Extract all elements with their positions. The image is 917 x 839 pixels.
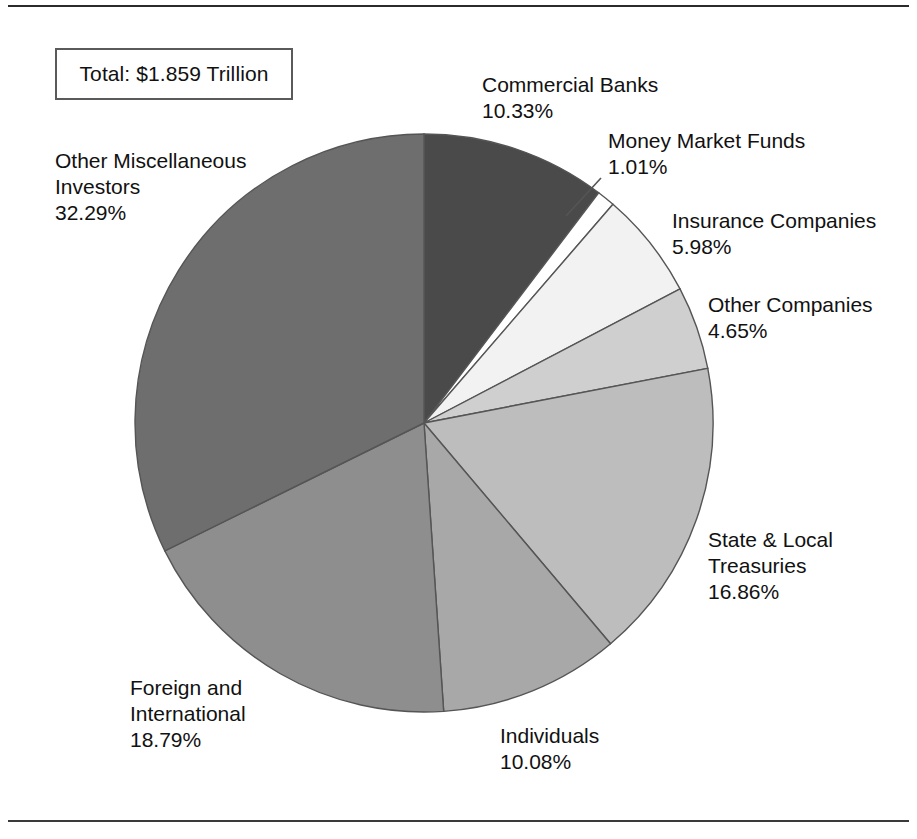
label-percent: 10.08%: [500, 749, 599, 775]
slice-label-money-market-funds: Money Market Funds 1.01%: [608, 128, 805, 180]
label-percent: 10.33%: [482, 98, 658, 124]
label-line-1: Other Miscellaneous: [55, 148, 246, 174]
label-percent: 4.65%: [708, 318, 873, 344]
slice-label-commercial-banks: Commercial Banks 10.33%: [482, 72, 658, 124]
label-percent: 16.86%: [708, 579, 833, 605]
slice-label-individuals: Individuals 10.08%: [500, 723, 599, 775]
label-line-2: International: [130, 701, 246, 727]
slice-label-foreign-international: Foreign and International 18.79%: [130, 675, 246, 753]
label-percent: 1.01%: [608, 154, 805, 180]
label-line-1: Other Companies: [708, 292, 873, 318]
label-line-1: Commercial Banks: [482, 72, 658, 98]
slice-label-insurance-companies: Insurance Companies 5.98%: [672, 208, 876, 260]
label-line-2: Investors: [55, 174, 246, 200]
label-line-1: Money Market Funds: [608, 128, 805, 154]
slice-label-other-miscellaneous: Other Miscellaneous Investors 32.29%: [55, 148, 246, 226]
figure-page: Total: $1.859 Trillion Other Miscellaneo…: [0, 0, 917, 839]
label-percent: 18.79%: [130, 727, 246, 753]
label-line-1: Insurance Companies: [672, 208, 876, 234]
label-percent: 32.29%: [55, 200, 246, 226]
label-percent: 5.98%: [672, 234, 876, 260]
slice-label-state-local-treasuries: State & Local Treasuries 16.86%: [708, 527, 833, 605]
label-line-2: Treasuries: [708, 553, 833, 579]
slice-label-other-companies: Other Companies 4.65%: [708, 292, 873, 344]
label-line-1: Foreign and: [130, 675, 246, 701]
label-line-1: State & Local: [708, 527, 833, 553]
label-line-1: Individuals: [500, 723, 599, 749]
